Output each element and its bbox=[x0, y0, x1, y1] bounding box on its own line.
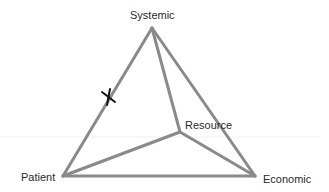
node-label-patient: Patient bbox=[21, 172, 55, 183]
edge-patient-resource bbox=[63, 132, 180, 176]
node-label-economic: Economic bbox=[263, 174, 311, 185]
edge-systemic-resource bbox=[152, 28, 180, 132]
node-label-resource: Resource bbox=[185, 120, 232, 131]
diagram-canvas: Systemic Resource Patient Economic bbox=[0, 0, 329, 192]
edge-systemic-economic bbox=[152, 28, 255, 176]
edge-economic-resource bbox=[180, 132, 255, 176]
node-label-systemic: Systemic bbox=[130, 10, 175, 21]
tetrahedron-diagram bbox=[0, 0, 329, 192]
